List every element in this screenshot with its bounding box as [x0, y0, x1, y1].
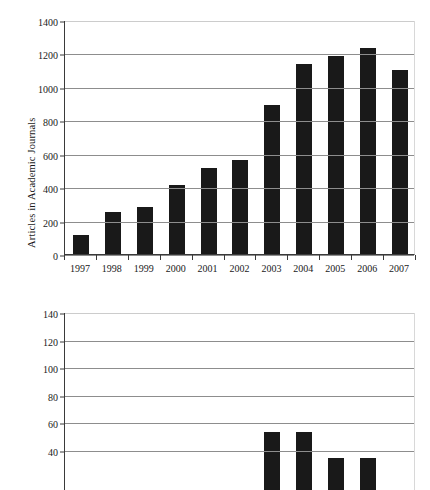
gridline: 40 — [65, 451, 414, 452]
gridline: 1000 — [65, 88, 414, 89]
bar-1998 — [97, 313, 129, 490]
bar-2007 — [384, 21, 416, 254]
y-tick-label: 120 — [43, 336, 58, 347]
bar-rect — [73, 235, 89, 254]
y-tick-mark — [60, 55, 65, 56]
x-tick-mark — [160, 255, 161, 260]
bar-2007 — [384, 313, 416, 490]
gridline: 100 — [65, 368, 414, 369]
x-tick-label-2001: 2001 — [198, 263, 218, 274]
y-tick-mark — [60, 155, 65, 156]
bar-rect — [360, 48, 376, 254]
x-tick-label-1997: 1997 — [70, 263, 90, 274]
bar-1997 — [65, 313, 97, 490]
y-tick-mark — [60, 452, 65, 453]
bar-2006 — [352, 313, 384, 490]
y-tick-mark — [60, 122, 65, 123]
bar-rect — [169, 185, 185, 254]
bar-2005 — [320, 21, 352, 254]
chart-news-magazines: Articles in News Magazines 4060801001201… — [0, 290, 430, 490]
x-tick-mark — [319, 255, 320, 260]
bar-2006 — [352, 21, 384, 254]
x-tick-mark — [96, 255, 97, 260]
y-tick-mark — [60, 396, 65, 397]
bar-2003 — [256, 21, 288, 254]
x-tick-mark — [287, 255, 288, 260]
y-tick-label: 1000 — [38, 83, 58, 94]
bar-series-news-magazines — [65, 313, 414, 490]
x-tick-mark — [224, 255, 225, 260]
x-tick-label-2006: 2006 — [357, 263, 377, 274]
x-tick-label-2007: 2007 — [389, 263, 409, 274]
bar-rect — [232, 160, 248, 254]
bar-2001 — [193, 313, 225, 490]
y-tick-label: 200 — [43, 217, 58, 228]
bar-rect — [264, 105, 280, 254]
bar-rect — [137, 207, 153, 254]
plot-area-news-magazines: 406080100120140 — [64, 313, 415, 490]
gridline: 60 — [65, 423, 414, 424]
plot-area-academic-journals: 0200400600800100012001400 — [64, 21, 415, 255]
y-tick-label: 140 — [43, 309, 58, 320]
bar-2004 — [288, 21, 320, 254]
x-tick-mark — [64, 255, 65, 260]
bar-1998 — [97, 21, 129, 254]
bar-1999 — [129, 313, 161, 490]
x-tick-label-2002: 2002 — [230, 263, 250, 274]
bar-rect — [360, 458, 376, 490]
gridline: 400 — [65, 188, 414, 189]
bar-rect — [328, 458, 344, 490]
bar-rect — [264, 432, 280, 490]
x-tick-label-2003: 2003 — [261, 263, 281, 274]
x-tick-label-2000: 2000 — [166, 263, 186, 274]
gridline: 600 — [65, 155, 414, 156]
y-tick-mark — [60, 341, 65, 342]
bar-rect — [105, 212, 121, 254]
y-tick-mark — [60, 369, 65, 370]
x-tick-label-1999: 1999 — [134, 263, 154, 274]
bar-2000 — [161, 21, 193, 254]
y-tick-label: 100 — [43, 364, 58, 375]
gridline: 1400 — [65, 21, 414, 22]
x-tick-label-2005: 2005 — [325, 263, 345, 274]
gridline: 140 — [65, 313, 414, 314]
y-tick-label: 1400 — [38, 17, 58, 28]
y-tick-label: 40 — [48, 447, 58, 458]
bar-rect — [296, 64, 312, 254]
bar-rect — [392, 70, 408, 254]
bar-1997 — [65, 21, 97, 254]
y-tick-label: 400 — [43, 184, 58, 195]
x-tick-mark — [255, 255, 256, 260]
x-tick-mark — [415, 255, 416, 260]
y-axis-title-academic-journals: Articles in Academic Journals — [26, 117, 37, 248]
bar-2002 — [225, 313, 257, 490]
bar-2005 — [320, 313, 352, 490]
bar-2004 — [288, 313, 320, 490]
y-tick-mark — [60, 424, 65, 425]
gridline: 200 — [65, 222, 414, 223]
bar-1999 — [129, 21, 161, 254]
y-tick-mark — [60, 314, 65, 315]
bar-2001 — [193, 21, 225, 254]
y-tick-label: 60 — [48, 419, 58, 430]
y-tick-mark — [60, 88, 65, 89]
x-tick-label-1998: 1998 — [102, 263, 122, 274]
x-tick-mark — [383, 255, 384, 260]
gridline: 120 — [65, 341, 414, 342]
y-tick-label: 600 — [43, 150, 58, 161]
bar-rect — [296, 432, 312, 490]
x-tick-label-2004: 2004 — [293, 263, 313, 274]
y-tick-mark — [60, 22, 65, 23]
bar-2000 — [161, 313, 193, 490]
y-tick-label: 1200 — [38, 50, 58, 61]
y-tick-mark — [60, 189, 65, 190]
chart-academic-journals: Articles in Academic Journals 0200400600… — [0, 0, 430, 290]
bar-rect — [201, 168, 217, 254]
gridline: 80 — [65, 396, 414, 397]
gridline: 1200 — [65, 54, 414, 55]
gridline: 800 — [65, 121, 414, 122]
y-tick-mark — [60, 222, 65, 223]
gridline: 0 — [65, 255, 414, 256]
y-tick-label: 80 — [48, 391, 58, 402]
bar-2003 — [256, 313, 288, 490]
